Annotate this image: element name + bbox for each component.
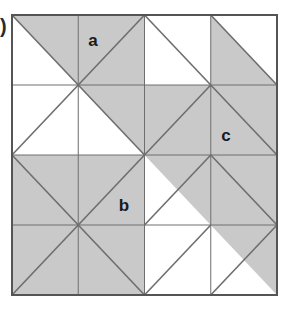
label-a: a [88, 31, 98, 50]
label-b: b [119, 196, 129, 215]
caption-mark: ) [0, 15, 7, 37]
figure-container: abc ) [0, 0, 286, 312]
tessellation-diagram: abc ) [0, 0, 286, 312]
label-c: c [221, 126, 230, 145]
